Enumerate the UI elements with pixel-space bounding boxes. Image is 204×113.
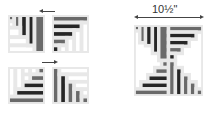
finished-quilt-block	[134, 25, 203, 96]
quilt-unit-top-right	[52, 15, 89, 53]
quilt-unit-bottom-left	[8, 67, 45, 104]
dimension-arrow-right-icon	[200, 15, 204, 19]
quilt-unit-bottom-right	[52, 67, 89, 104]
dimension-arrow	[136, 17, 202, 18]
arrow-head-left-icon	[39, 9, 43, 13]
dimension-arrow-left-icon	[134, 15, 138, 19]
rotate-arrow-top	[41, 11, 55, 12]
quilt-unit-top-left	[8, 15, 45, 53]
dimension-label: 10½"	[152, 3, 177, 15]
arrow-head-right-icon	[54, 60, 58, 64]
